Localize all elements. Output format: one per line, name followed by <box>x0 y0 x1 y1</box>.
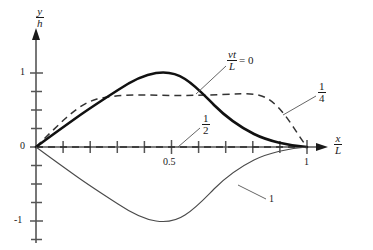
annotation-curve-quarter: 1 4 <box>318 81 326 105</box>
annotation-curve-half-denominator: 2 <box>202 125 210 136</box>
x-tick-label-1: 1 <box>304 157 309 167</box>
y-tick-label-0: 0 <box>20 141 25 151</box>
annotation-curve-zero-equals: = 0 <box>237 55 253 66</box>
x-tick-label-0-5: 0.5 <box>163 157 176 167</box>
x-axis-label-denominator: L <box>334 145 342 156</box>
y-axis-group <box>30 28 43 243</box>
leader-line-curve-quarter <box>283 96 316 115</box>
x-axis-arrowhead <box>316 143 328 151</box>
curve-zero-path <box>36 72 307 147</box>
figure-canvas: y h x L 1 0 -1 0.5 1 vt L = 0 1 4 1 2 <box>0 0 373 250</box>
annotation-curve-zero-denominator: L <box>227 61 237 72</box>
annotation-curve-half: 1 2 <box>202 113 210 137</box>
y-axis-label-denominator: h <box>36 18 44 29</box>
y-tick-label-neg1: -1 <box>14 215 22 225</box>
annotation-curve-one: 1 <box>269 194 274 204</box>
plot-svg <box>0 0 373 250</box>
x-axis-label: x L <box>334 133 342 157</box>
y-axis-label: y h <box>36 6 44 30</box>
annotation-curve-quarter-denominator: 4 <box>318 93 326 104</box>
leader-line-curve-one <box>238 185 266 199</box>
leader-line-curve-zero <box>196 66 226 94</box>
leader-line-curve-half <box>178 128 200 147</box>
annotation-curve-zero: vt L = 0 <box>227 49 253 73</box>
y-tick-label-1: 1 <box>20 67 25 77</box>
